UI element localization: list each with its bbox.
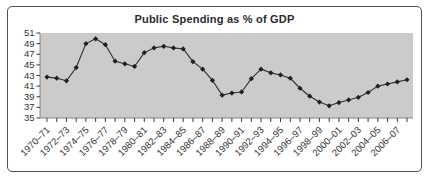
chart-title: Public Spending as % of GDP bbox=[0, 13, 429, 25]
plot-panel bbox=[40, 33, 413, 118]
y-tick-label: 41 bbox=[24, 80, 35, 91]
y-tick-label: 51 bbox=[24, 27, 35, 38]
y-tick-label: 39 bbox=[24, 91, 35, 102]
chart-canvas: 3537394143454749511970–711972–731974–751… bbox=[0, 0, 429, 180]
y-tick-label: 47 bbox=[24, 48, 35, 59]
y-tick-label: 37 bbox=[24, 101, 35, 112]
y-tick-label: 49 bbox=[24, 38, 35, 49]
y-tick-label: 43 bbox=[24, 70, 35, 81]
y-tick-label: 35 bbox=[24, 112, 35, 123]
y-tick-label: 45 bbox=[24, 59, 35, 70]
